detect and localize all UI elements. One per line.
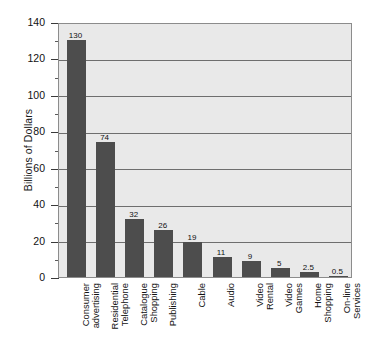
x-axis-label: Audio (226, 283, 236, 361)
bar-value-label: 74 (82, 133, 128, 142)
x-axis-label: Video Games (284, 283, 305, 361)
y-tick-label: 120 (0, 52, 45, 64)
y-tick-label: 60 (0, 162, 45, 174)
y-tick-label: 100 (0, 89, 45, 101)
x-axis-label: Residential Telephone (110, 283, 131, 361)
bar-value-label: 26 (140, 221, 186, 230)
y-tick-label: 20 (0, 235, 45, 247)
x-axis-label: On-line Services (342, 283, 363, 361)
y-tick-label: 40 (0, 198, 45, 210)
bar-value-label: 0.5 (314, 267, 360, 276)
x-axis-label: Video Rental (255, 283, 276, 361)
gridline (59, 60, 351, 61)
bar-chart-figure: Billions of Dollars 020406080100120140 1… (0, 0, 371, 363)
bar-value-label: 19 (169, 233, 215, 242)
x-axis-label: Home Shopping (313, 283, 334, 361)
x-axis-label: Cable (197, 283, 207, 361)
bar-value-label: 130 (53, 31, 99, 40)
x-axis-label: Catalogue Shopping (139, 283, 160, 361)
bar (67, 40, 86, 277)
gridline (59, 96, 351, 97)
y-tick-label: 80 (0, 125, 45, 137)
x-axis-label: Publishing (168, 283, 178, 361)
y-tick-label: 140 (0, 16, 45, 28)
bar (329, 276, 348, 277)
y-tick-label: 0 (0, 271, 45, 283)
y-tick-major (51, 278, 59, 279)
bar-value-label: 32 (111, 210, 157, 219)
x-axis-label: Consumer advertising (81, 283, 102, 361)
